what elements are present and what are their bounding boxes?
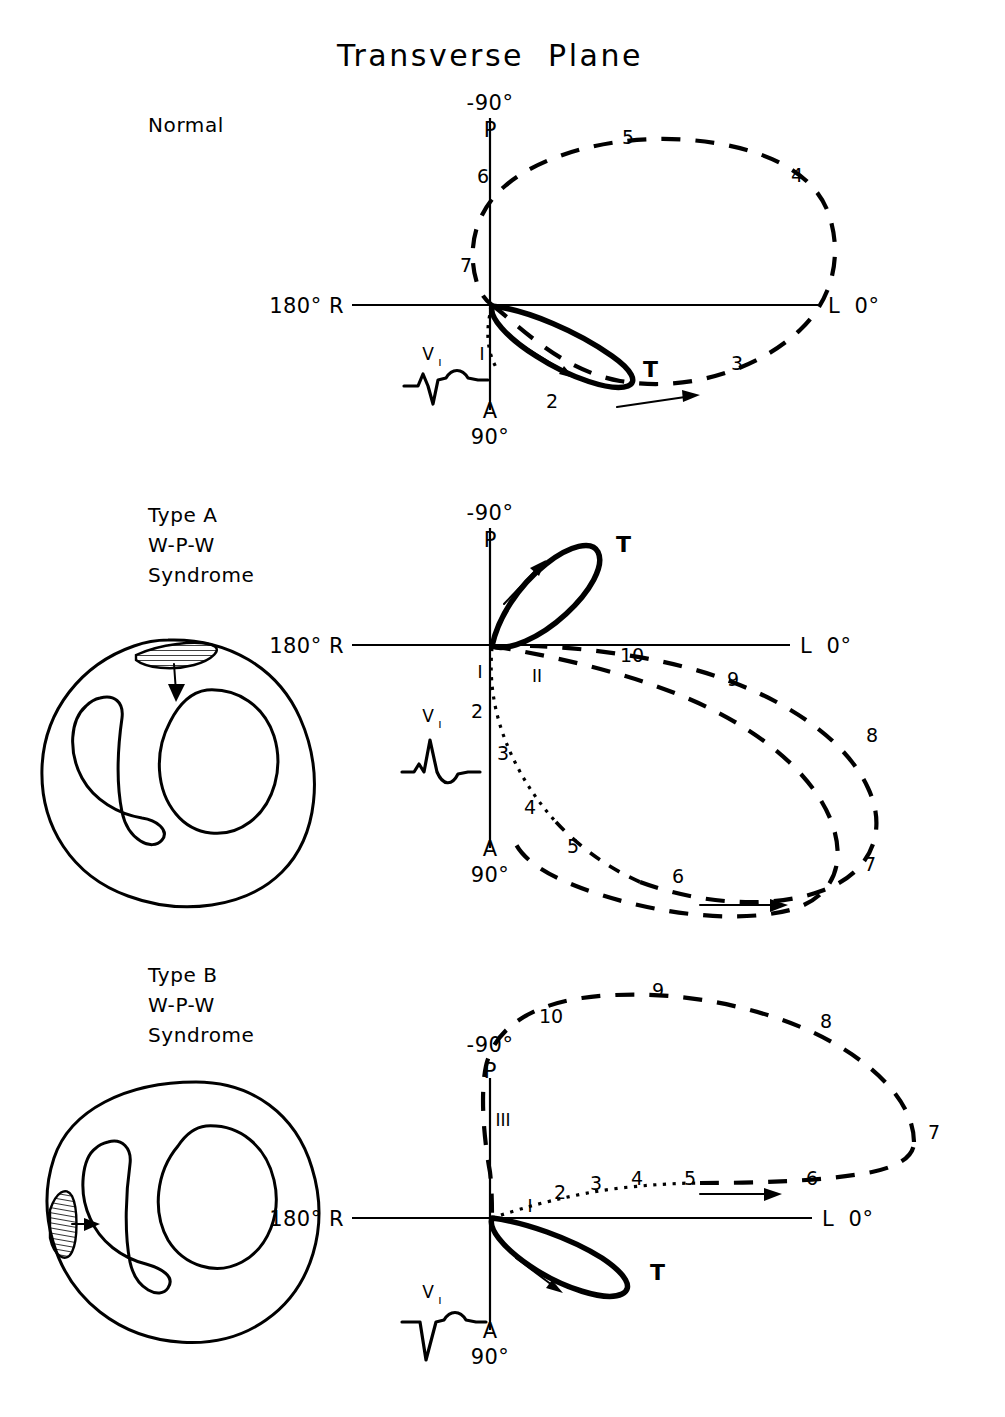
type-b-mark-III: III [495,1110,510,1130]
axis-label-posterior: P [484,118,497,142]
figure-title: Transverse Plane [336,38,643,73]
axis-label-right-180: 180° R [269,634,344,658]
type-b-t-loop-label: T [650,1260,665,1285]
type-b-mark-9: 9 [652,979,664,1001]
axis-label-left-0: L 0° [822,1207,873,1231]
type-b-mark-2: 2 [554,1181,566,1203]
panel-type-a-label-line-3: Syndrome [148,563,255,587]
normal-mark-6: 6 [477,165,489,187]
type-a-mark-4: 4 [524,796,536,818]
axis-label-left-0: L 0° [800,634,851,658]
type-b-lead-label: V [422,1282,434,1302]
axis-label-right-180: 180° R [269,294,344,318]
type-b-mark-10: 10 [539,1005,563,1027]
axis-label-top-angle: -90° [467,91,514,115]
type-a-heart-diagram [42,640,314,907]
type-a-mark-I: I [477,662,482,682]
type-b-mark-3: 3 [590,1172,602,1194]
axis-label-top-angle: -90° [467,501,514,525]
type-b-lead-subscript: ı [438,1293,441,1307]
axis-label-bottom-angle: 90° [471,1345,510,1369]
normal-mark-5: 5 [622,126,634,148]
normal-t-loop-label: T [643,357,658,382]
normal-mark-2: 2 [546,390,558,412]
type-a-mark-II: II [532,666,542,686]
normal-mark-7: 7 [460,254,472,276]
type-a-mark-9: 9 [727,668,739,690]
type-b-mark-7: 7 [928,1121,940,1143]
axis-label-anterior: A [483,399,498,423]
transverse-plane-figure: Transverse Plane Normal -90° P A 90° 180… [0,0,1005,1417]
axis-label-right-180: 180° R [269,1207,344,1231]
type-a-mark-8: 8 [866,724,878,746]
normal-mark-I: I [479,344,484,364]
panel-type-a-label-line-2: W-P-W [148,533,215,557]
type-a-t-loop-label: T [616,532,631,557]
figure-root: Transverse Plane Normal -90° P A 90° 180… [0,0,1005,1417]
panel-type-b-label-line-2: W-P-W [148,993,215,1017]
type-b-mark-8: 8 [820,1010,832,1032]
axis-label-bottom-angle: 90° [471,863,510,887]
type-b-mark-5: 5 [684,1167,696,1189]
normal-lead-label: V [422,344,434,364]
axis-label-top-angle: -90° [467,1033,514,1057]
panel-type-b-label-line-1: Type B [147,963,218,987]
type-a-mark-2: 2 [471,700,483,722]
axis-label-left-0: L 0° [828,294,879,318]
type-b-mark-4: 4 [631,1167,643,1189]
type-b-mark-I: I [527,1196,532,1216]
type-b-mark-6: 6 [806,1167,818,1189]
normal-mark-4: 4 [791,164,803,186]
axis-label-posterior: P [484,528,497,552]
type-a-mark-3: 3 [497,742,509,764]
normal-lead-subscript: ı [438,355,441,369]
axis-label-bottom-angle: 90° [471,425,510,449]
type-a-lead-subscript: ı [438,717,441,731]
normal-mark-3: 3 [731,352,743,374]
panel-normal-label-line-1: Normal [148,113,224,137]
type-a-mark-5: 5 [567,835,579,857]
type-b-left-ventricle-cavity [158,1126,276,1268]
panel-type-a-label-line-1: Type A [147,503,218,527]
axis-label-anterior: A [483,837,498,861]
type-a-left-ventricle-cavity [159,690,278,833]
panel-type-b-label-line-3: Syndrome [148,1023,255,1047]
type-a-mark-6: 6 [672,865,684,887]
type-a-lead-label: V [422,706,434,726]
